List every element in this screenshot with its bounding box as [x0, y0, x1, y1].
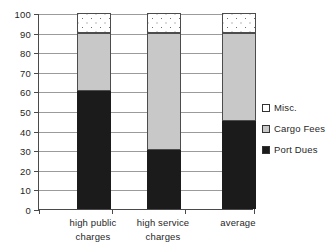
x-axis-label-line: charges: [118, 230, 208, 244]
x-axis-label: average: [193, 216, 283, 230]
y-axis-tick: [34, 34, 39, 35]
y-axis-tick-label: 80: [20, 48, 31, 59]
bar-high-public-charges: [77, 13, 111, 209]
y-axis-tick: [34, 171, 39, 172]
bar-high-service-charges: [147, 13, 181, 209]
gridline: [39, 171, 253, 172]
bar-segment-cargo-fees: [77, 33, 111, 92]
x-axis-label-line: average: [193, 216, 283, 230]
y-axis-tick: [34, 53, 39, 54]
bar-segment-cargo-fees: [222, 33, 256, 121]
y-axis-tick-label: 100: [15, 9, 31, 20]
x-axis-tick: [112, 209, 113, 214]
gridline: [39, 53, 253, 54]
bar-segment-port-dues: [77, 91, 111, 209]
y-axis-tick-label: 60: [20, 87, 31, 98]
gridline: [39, 151, 253, 152]
y-axis-tick: [34, 151, 39, 152]
y-axis-tick-label: 20: [20, 165, 31, 176]
bar-segment-misc-: [77, 13, 111, 33]
y-axis-tick: [34, 190, 39, 191]
gridline: [39, 190, 253, 191]
gridline: [39, 73, 253, 74]
y-axis-tick: [34, 73, 39, 74]
legend-swatch: [262, 146, 270, 154]
legend-item-port-dues: Port Dues: [262, 144, 325, 155]
y-axis-tick-label: 50: [20, 107, 31, 118]
y-axis-tick: [34, 112, 39, 113]
bar-segment-port-dues: [222, 121, 256, 209]
gridline: [39, 34, 253, 35]
gridline: [39, 132, 253, 133]
y-axis-tick: [34, 92, 39, 93]
legend-label: Port Dues: [274, 144, 318, 155]
y-axis-tick-label: 90: [20, 28, 31, 39]
bar-average: [222, 13, 256, 209]
y-axis-tick: [34, 132, 39, 133]
bar-segment-port-dues: [147, 150, 181, 209]
bar-segment-misc-: [147, 13, 181, 33]
plot-area: 0102030405060708090100: [38, 14, 253, 210]
gridline: [39, 92, 253, 93]
y-axis-tick-label: 30: [20, 146, 31, 157]
legend-swatch: [262, 125, 270, 133]
legend-label: Misc.: [274, 102, 297, 113]
x-axis-tick: [185, 209, 186, 214]
y-axis-tick: [34, 14, 39, 15]
y-axis-tick-label: 40: [20, 126, 31, 137]
bar-segment-cargo-fees: [147, 33, 181, 151]
y-axis-tick-label: 10: [20, 185, 31, 196]
gridline: [39, 14, 253, 15]
y-axis-tick-label: 0: [26, 205, 31, 216]
y-axis-tick-label: 70: [20, 67, 31, 78]
legend-swatch: [262, 104, 270, 112]
gridline: [39, 112, 253, 113]
x-axis-tick: [254, 209, 255, 214]
bar-segment-misc-: [222, 13, 256, 33]
legend-label: Cargo Fees: [274, 123, 325, 134]
stacked-bar-chart: 0102030405060708090100 high publiccharge…: [0, 0, 335, 252]
legend-item-misc: Misc.: [262, 102, 325, 113]
legend-item-cargo-fees: Cargo Fees: [262, 123, 325, 134]
chart-legend: Misc.Cargo FeesPort Dues: [262, 102, 325, 155]
x-axis-tick: [39, 209, 40, 214]
